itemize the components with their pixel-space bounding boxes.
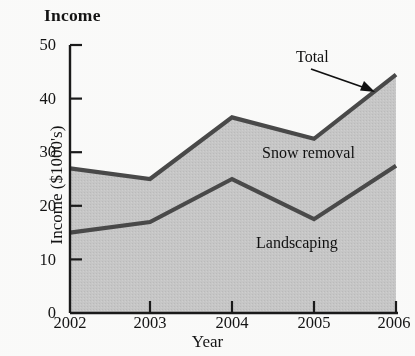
plot-area xyxy=(0,0,415,356)
income-area-chart-figure: Income Income ($1000's) Year 50 40 30 20… xyxy=(0,0,415,356)
total-annotation-arrow xyxy=(311,69,375,92)
snow-removal-label: Snow removal xyxy=(262,144,355,162)
landscaping-label: Landscaping xyxy=(256,234,338,252)
total-label: Total xyxy=(296,48,329,66)
